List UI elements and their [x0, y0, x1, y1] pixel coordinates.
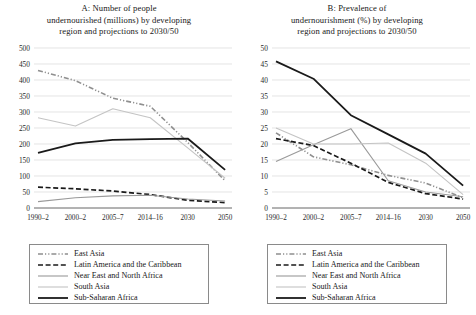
legend-line-swatch — [36, 249, 70, 259]
legend-item-label: South Asia — [312, 282, 347, 292]
legend-item-label: Latin America and the Caribbean — [74, 260, 181, 270]
legend-item-label: Near East and North Africa — [74, 271, 163, 281]
y-axis-tick-label: 5 — [264, 188, 268, 197]
x-axis-tick-label: 2050 — [456, 214, 471, 222]
legend-item[interactable]: Near East and North Africa — [30, 270, 208, 281]
panel-b-title-line1: B: Prevalence of — [252, 3, 462, 15]
x-axis-tick-label: 2050 — [218, 214, 233, 222]
y-axis-tick-label: 25 — [261, 124, 269, 133]
panel-b-legend-wrap: East AsiaLatin America and the Caribbean… — [238, 240, 476, 310]
x-axis-tick-label: 2014–16 — [138, 214, 164, 222]
legend-line-swatch — [274, 282, 308, 292]
legend-item-label: Sub-Saharan Africa — [74, 293, 138, 303]
x-axis-tick-label: 2000–2 — [65, 214, 87, 222]
x-axis-tick-label: 1990–2 — [27, 214, 49, 222]
y-axis-tick-label: 15 — [261, 156, 269, 165]
x-axis-tick-label: 2005–7 — [340, 214, 362, 222]
y-axis-tick-label: 500 — [19, 44, 30, 53]
y-axis-tick-label: 200 — [19, 140, 30, 149]
x-axis-tick-label: 2030 — [181, 214, 196, 222]
legend-item-label: East Asia — [312, 249, 342, 259]
panel-b-plot-area: 051015202530354045501990–22000–22005–720… — [238, 40, 476, 235]
legend-item-label: East Asia — [74, 249, 104, 259]
legend-item[interactable]: South Asia — [30, 281, 208, 292]
legend-item[interactable]: Sub-Saharan Africa — [268, 292, 446, 303]
x-axis-tick-label: 2030 — [419, 214, 434, 222]
y-axis-tick-label: 400 — [19, 76, 30, 85]
legend-line-swatch — [274, 249, 308, 259]
y-axis-tick-label: 40 — [261, 76, 269, 85]
y-axis-tick-label: 50 — [261, 44, 269, 53]
figure-two-panel-line-charts: A: Number of people undernourished (mill… — [0, 0, 476, 315]
series-line — [38, 109, 225, 178]
y-axis-tick-label: 450 — [19, 60, 30, 69]
y-axis-tick-label: 45 — [261, 60, 269, 69]
y-axis-tick-label: 0 — [264, 204, 268, 213]
panel-b-title-line3: region and projections to 2030/50 — [252, 26, 462, 38]
panel-a-title-line3: region and projections to 2030/50 — [14, 26, 224, 38]
y-axis-tick-label: 300 — [19, 108, 30, 117]
series-line — [276, 133, 463, 198]
panel-a-legend: East AsiaLatin America and the Caribbean… — [29, 244, 209, 304]
legend-item[interactable]: Latin America and the Caribbean — [30, 259, 208, 270]
series-line — [38, 187, 225, 202]
panel-a-legend-wrap: East AsiaLatin America and the Caribbean… — [0, 240, 238, 310]
legend-line-swatch — [36, 260, 70, 270]
panel-b-chart-svg: 051015202530354045501990–22000–22005–720… — [238, 40, 476, 235]
legend-item[interactable]: Near East and North Africa — [268, 270, 446, 281]
legend-item[interactable]: Latin America and the Caribbean — [268, 259, 446, 270]
legend-item[interactable]: East Asia — [30, 248, 208, 259]
y-axis-tick-label: 100 — [19, 172, 30, 181]
x-axis-tick-label: 2000–2 — [303, 214, 325, 222]
legend-item-label: South Asia — [74, 282, 109, 292]
legend-item-label: Latin America and the Caribbean — [312, 260, 419, 270]
y-axis-tick-label: 0 — [26, 204, 30, 213]
legend-line-swatch — [36, 282, 70, 292]
y-axis-tick-label: 150 — [19, 156, 30, 165]
legend-line-swatch — [36, 271, 70, 281]
legend-line-swatch — [274, 293, 308, 303]
panel-b-title: B: Prevalence of undernourishment (%) by… — [238, 0, 476, 40]
panel-a-chart-svg: 0501001502002503003504004505001990–22000… — [0, 40, 238, 235]
panel-b-title-line2: undernourishment (%) by developing — [252, 15, 462, 27]
y-axis-tick-label: 30 — [261, 108, 269, 117]
y-axis-tick-label: 35 — [261, 92, 269, 101]
panel-a: A: Number of people undernourished (mill… — [0, 0, 238, 315]
panel-a-title: A: Number of people undernourished (mill… — [0, 0, 238, 40]
legend-item[interactable]: South Asia — [268, 281, 446, 292]
series-line — [276, 139, 463, 199]
legend-item-label: Sub-Saharan Africa — [312, 293, 376, 303]
panel-a-title-line2: undernourished (millions) by developing — [14, 15, 224, 27]
panel-a-title-line1: A: Number of people — [14, 3, 224, 15]
panel-b-legend: East AsiaLatin America and the Caribbean… — [267, 244, 447, 304]
legend-item[interactable]: Sub-Saharan Africa — [30, 292, 208, 303]
panel-b: B: Prevalence of undernourishment (%) by… — [238, 0, 476, 315]
y-axis-tick-label: 10 — [261, 172, 269, 181]
x-axis-tick-label: 2014–16 — [376, 214, 402, 222]
legend-item[interactable]: East Asia — [268, 248, 446, 259]
x-axis-tick-label: 2005–7 — [102, 214, 124, 222]
y-axis-tick-label: 250 — [19, 124, 30, 133]
y-axis-tick-label: 350 — [19, 92, 30, 101]
y-axis-tick-label: 50 — [23, 188, 31, 197]
panel-a-plot-area: 0501001502002503003504004505001990–22000… — [0, 40, 238, 235]
series-line — [38, 139, 225, 170]
legend-line-swatch — [274, 260, 308, 270]
x-axis-tick-label: 1990–2 — [265, 214, 287, 222]
legend-line-swatch — [36, 293, 70, 303]
legend-line-swatch — [274, 271, 308, 281]
y-axis-tick-label: 20 — [261, 140, 269, 149]
legend-item-label: Near East and North Africa — [312, 271, 401, 281]
series-line — [38, 70, 225, 180]
